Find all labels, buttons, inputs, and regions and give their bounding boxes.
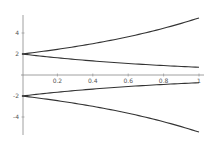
series-line (22, 54, 199, 67)
x-tick-label: 0.2 (53, 77, 63, 84)
x-tick-label: 0.8 (159, 77, 169, 84)
line-chart: 0.20.40.60.8142-2-4 (0, 0, 213, 145)
y-tick-label: 4 (15, 29, 19, 36)
x-tick-label: 0.6 (123, 77, 133, 84)
y-tick-label: 2 (15, 50, 19, 57)
series-line (22, 83, 199, 96)
axis-ticks: 0.20.40.60.8142-2-4 (13, 29, 201, 120)
y-tick-label: -4 (13, 113, 19, 120)
axes (21, 15, 204, 135)
y-tick-label: -2 (13, 92, 19, 99)
series-line (22, 96, 199, 132)
x-tick-label: 0.4 (88, 77, 98, 84)
series-line (22, 18, 199, 54)
